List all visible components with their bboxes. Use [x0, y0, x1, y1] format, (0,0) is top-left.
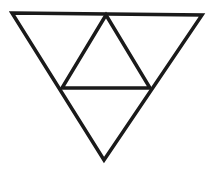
inner-upright-triangle [62, 15, 150, 88]
subdivided-triangle-diagram [0, 0, 209, 173]
